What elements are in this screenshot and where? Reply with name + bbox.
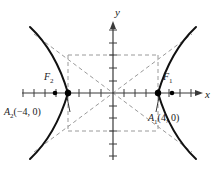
focus-left-point bbox=[53, 91, 58, 96]
vertex-left-label: A2(−4, 0) bbox=[3, 106, 41, 120]
focus-left-label: F2 bbox=[43, 71, 54, 85]
focus-right-subscript: 1 bbox=[169, 77, 173, 85]
x-axis-arrowhead bbox=[195, 90, 203, 96]
figure-canvas: y x F2 F1 A2(−4, 0) A1(4, 0) bbox=[0, 0, 221, 171]
y-axis-label: y bbox=[114, 6, 120, 18]
focus-left-subscript: 2 bbox=[50, 77, 54, 85]
hyperbola-figure: y x F2 F1 A2(−4, 0) A1(4, 0) bbox=[0, 0, 221, 171]
y-axis-arrowhead bbox=[110, 21, 116, 29]
focus-right-point bbox=[170, 91, 175, 96]
vertex-right-label: A1(4, 0) bbox=[147, 112, 179, 126]
vertex-left-point bbox=[65, 90, 71, 96]
vertex-right-point bbox=[155, 90, 161, 96]
vertex-left-coords: (−4, 0) bbox=[14, 106, 41, 118]
x-axis-label: x bbox=[204, 88, 210, 100]
vertex-right-coords: (4, 0) bbox=[158, 112, 180, 124]
focus-right-label: F1 bbox=[162, 71, 173, 85]
